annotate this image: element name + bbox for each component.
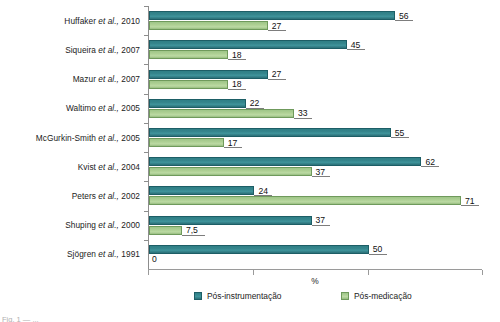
x-axis-line [148,269,482,270]
x-axis-tick [482,270,483,275]
bar-value-label: 56 [399,11,409,20]
bar-value-label: 45 [351,40,361,49]
legend-swatch-icon-teal [194,292,202,300]
category-label: Waltimo et al., 2005 [66,103,140,113]
y-axis-tick [144,64,149,65]
bar-pos-medicacao: 7,5 [149,226,182,235]
bar-pos-instrumentacao: 37 [149,216,312,225]
category-label: Siqueira et al., 2007 [65,45,140,55]
y-axis-tick [144,152,149,153]
bar-body [149,50,228,59]
value-label-leader-line [369,254,387,255]
x-axis-tick [253,270,254,275]
y-axis-tick [144,35,149,36]
category-label: Sjögren et al., 1991 [67,249,140,259]
value-label-leader-line [228,89,246,90]
value-label-leader-line [347,49,365,50]
value-label-leader-line [268,30,286,31]
caption-sliver: Fig. 1 — ... [2,315,39,322]
value-label-leader-line [312,225,330,226]
y-axis-tick [144,211,149,212]
bar-value-label: 7,5 [186,226,198,235]
bar-body [149,21,268,30]
bar-pos-instrumentacao: 27 [149,70,268,79]
bar-pos-medicacao: 18 [149,80,228,89]
bar-body [149,226,182,235]
bar-value-label: 62 [425,157,435,166]
value-label-leader-line [228,59,246,60]
category-label: Shuping et al., 2000 [65,220,140,230]
legend-item-pos-instrumentacao[interactable]: Pós-instrumentação [194,291,281,301]
bar-pos-instrumentacao: 56 [149,11,395,20]
value-label-leader-line [268,79,286,80]
bar-value-label: 18 [232,80,242,89]
category-label: Peters et al., 2002 [72,191,140,201]
category-label: Huffaker et al., 2010 [64,16,140,26]
bar-value-label: 37 [316,167,326,176]
value-label-leader-line [421,166,439,167]
bar-value-label: 18 [232,50,242,59]
y-axis-tick [144,181,149,182]
bar-pos-medicacao: 27 [149,21,268,30]
bar-pos-medicacao: 18 [149,50,228,59]
value-label-leader-line [182,235,205,236]
bar-pos-medicacao: 33 [149,109,294,118]
bar-pos-instrumentacao: 45 [149,40,347,49]
bar-body [149,80,228,89]
x-axis-title: % [148,276,482,286]
bar-body [149,186,254,195]
bar-body [149,128,391,137]
bar-value-label: 0 [152,255,157,264]
bar-value-label: 37 [316,216,326,225]
bar-body [149,109,294,118]
x-axis-tick [368,270,369,275]
chart-legend: Pós-instrumentação Pós-medicação [148,291,482,305]
category-label: McGurkin-Smith et al., 2005 [36,133,140,143]
legend-label: Pós-medicação [354,291,412,301]
bar-value-label: 27 [272,21,282,30]
legend-swatch-icon-green [341,292,349,300]
bar-value-label: 24 [258,186,268,195]
value-label-leader-line [294,118,312,119]
bar-pos-medicacao: 71 [149,196,461,205]
bar-body [149,167,312,176]
y-axis-tick [144,6,149,7]
bar-body [149,138,224,147]
bar-value-label: 22 [250,99,260,108]
bar-pos-instrumentacao: 24 [149,186,254,195]
bar-pos-instrumentacao: 55 [149,128,391,137]
bar-pos-medicacao: 17 [149,138,224,147]
bar-body [149,245,369,254]
legend-item-pos-medicacao[interactable]: Pós-medicação [341,291,412,301]
bar-value-label: 55 [395,128,405,137]
y-axis-tick [144,240,149,241]
bar-body [149,99,246,108]
bar-body [149,196,461,205]
bar-body [149,70,268,79]
y-axis-tick [144,123,149,124]
bar-pos-instrumentacao: 50 [149,245,369,254]
value-label-leader-line [224,147,242,148]
category-label: Mazur et al., 2007 [73,74,140,84]
bar-value-label: 27 [272,70,282,79]
bar-value-label: 33 [298,109,308,118]
value-label-leader-line [461,205,479,206]
bar-body [149,157,421,166]
bar-pos-instrumentacao: 22 [149,99,246,108]
category-label: Kvist et al., 2004 [78,162,140,172]
bar-value-label: 17 [228,138,238,147]
bar-value-label: 50 [373,245,383,254]
legend-label: Pós-instrumentação [207,291,281,301]
value-label-leader-line [395,20,413,21]
bar-body [149,216,312,225]
plot-area: 5627451827182233551762372471377,5500 [148,6,482,269]
bar-pos-medicacao: 37 [149,167,312,176]
y-axis-tick [144,94,149,95]
bar-pos-instrumentacao: 62 [149,157,421,166]
value-label-leader-line [391,137,409,138]
bar-body [149,11,395,20]
bar-body [149,40,347,49]
bar-value-label: 71 [465,196,475,205]
category-axis-labels: Huffaker et al., 2010Siqueira et al., 20… [0,6,144,269]
